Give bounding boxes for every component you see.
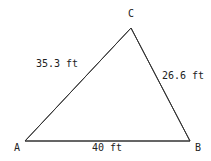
side-label-bc: 26.6 ft [162,70,204,81]
triangle-diagram: C A B 35.3 ft 26.6 ft 40 ft [0,0,211,161]
vertex-label-b: B [195,142,201,153]
side-label-ab: 40 ft [92,142,122,153]
side-label-ac: 35.3 ft [36,58,78,69]
side-ac [25,28,131,141]
side-bc [131,28,190,141]
triangle-abc [25,28,190,141]
vertex-label-a: A [14,142,20,153]
vertex-label-c: C [128,8,134,19]
